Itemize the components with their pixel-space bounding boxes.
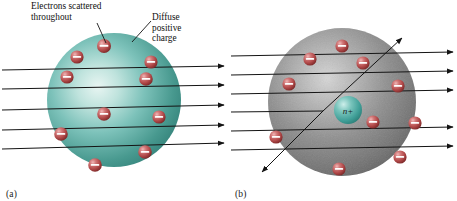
electron <box>138 145 152 159</box>
panel-a-caption: (a) <box>6 189 17 199</box>
nucleus: n+ <box>334 96 362 124</box>
electron <box>335 39 348 52</box>
electron <box>408 116 421 129</box>
panel-plum-pudding-model: Electrons scattered throughout Diffuse p… <box>0 0 228 201</box>
panel-b-scene: n+ <box>229 0 457 201</box>
electron <box>97 107 111 121</box>
electron <box>391 79 404 92</box>
electron <box>139 72 153 86</box>
electron <box>88 158 102 172</box>
panel-nuclear-model: n+ <box>229 0 457 201</box>
electrons-scattered-label: Electrons scattered throughout <box>31 1 101 22</box>
electron <box>269 130 282 143</box>
nucleus-label: n+ <box>343 106 354 116</box>
electron <box>393 150 406 163</box>
electron <box>282 77 295 90</box>
electron <box>152 110 165 123</box>
diffuse-positive-charge-label: Diffuse positive charge <box>152 12 181 44</box>
charge-label-leader <box>132 21 151 42</box>
electron <box>54 127 68 141</box>
electron <box>97 39 111 53</box>
panel-b-caption: (b) <box>235 189 247 199</box>
panel-a-scene <box>0 0 228 201</box>
scattering-figure: Electrons scattered throughout Diffuse p… <box>0 0 457 201</box>
electron <box>144 55 157 68</box>
electron <box>303 52 316 65</box>
electron <box>366 115 379 128</box>
electron <box>332 162 345 175</box>
electron <box>70 50 83 63</box>
electron <box>356 56 369 69</box>
electron <box>60 70 73 83</box>
